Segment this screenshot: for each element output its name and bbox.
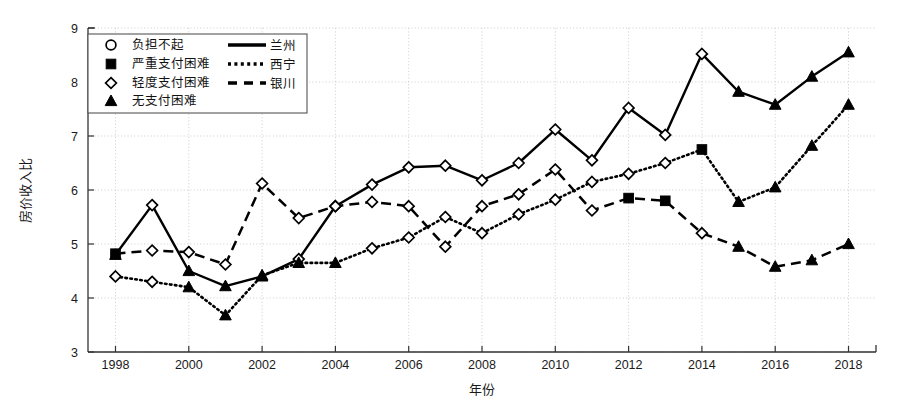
x-axis-tick-label: 2006 <box>395 358 423 372</box>
legend-marker-label: 负担不起 <box>132 37 184 52</box>
x-axis-tick-label: 2004 <box>321 358 349 372</box>
y-axis-tick-label: 4 <box>71 292 78 306</box>
house-price-income-ratio-line-chart: 3456789 19982000200220042006200820102012… <box>0 0 905 410</box>
legend-marker-label: 轻度支付困难 <box>132 75 210 90</box>
x-axis-tick-label: 2002 <box>248 358 276 372</box>
x-axis-tick-label: 1998 <box>102 358 130 372</box>
legend-line-label: 兰州 <box>270 38 296 53</box>
x-axis-tick-label: 2010 <box>541 358 569 372</box>
y-axis-tick-label: 7 <box>71 130 78 144</box>
marker-square-filled <box>111 249 121 259</box>
x-axis-tick-label: 2000 <box>175 358 203 372</box>
y-axis-tick-label: 8 <box>71 76 78 90</box>
legend-line-label: 西宁 <box>270 57 296 72</box>
legend-line-label: 银川 <box>270 76 296 91</box>
legend-marker-label: 严重支付困难 <box>132 56 210 71</box>
x-axis-tick-label: 2014 <box>688 358 716 372</box>
chart-figure: 3456789 19982000200220042006200820102012… <box>0 0 905 410</box>
x-axis-tick-label: 2008 <box>468 358 496 372</box>
marker-square-filled <box>697 145 707 155</box>
y-axis-tick-label: 9 <box>71 22 78 36</box>
x-axis-tick-label: 2018 <box>835 358 863 372</box>
legend-marker-label: 无支付困难 <box>132 93 197 108</box>
chart-legend: 负担不起严重支付困难轻度支付困难无支付困难兰州西宁银川 <box>88 34 307 113</box>
marker-square-filled <box>660 196 670 206</box>
legend-marker-circle-icon <box>106 40 116 50</box>
y-axis-tick-label: 5 <box>71 238 78 252</box>
x-axis-tick-label: 2012 <box>615 358 643 372</box>
y-axis-tick-label: 3 <box>71 346 78 360</box>
legend-marker-square-icon <box>106 59 116 69</box>
x-axis-tick-label: 2016 <box>761 358 789 372</box>
marker-square-filled <box>624 193 634 203</box>
x-axis-title: 年份 <box>469 382 495 397</box>
y-axis-title: 房价收入比 <box>18 158 33 223</box>
y-axis-tick-label: 6 <box>71 184 78 198</box>
